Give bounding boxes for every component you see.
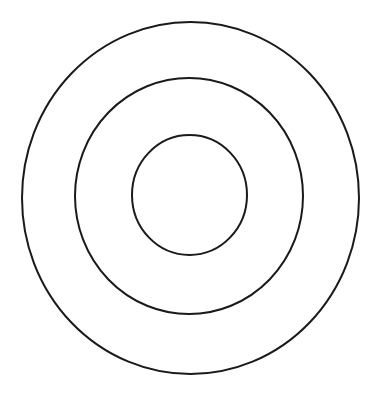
background [0, 0, 381, 396]
concentric-circles-diagram [0, 0, 381, 396]
